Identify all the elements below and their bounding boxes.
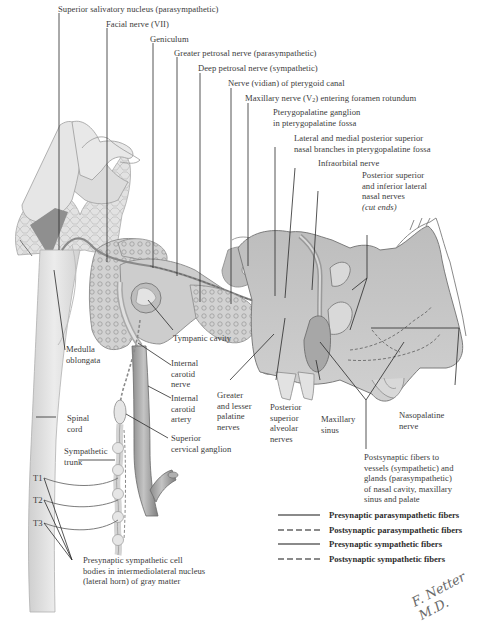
legend-item-postsynaptic-parasympathetic: Postsynaptic parasympathetic fibers [278, 523, 462, 538]
label-superior-salivatory-nucleus: Superior salivatory nucleus (parasympath… [58, 4, 218, 15]
label-deep-petrosal-nerve: Deep petrosal nerve (sympathetic) [198, 63, 318, 74]
fiber-legend: Presynaptic parasympathetic fibers Posts… [278, 508, 462, 566]
label-maxillary-sinus: Maxillary sinus [321, 414, 355, 435]
label-internal-carotid-artery: Internal carotid artery [171, 393, 198, 425]
solid-line-swatch [278, 514, 320, 516]
label-spinal-cord: Spinal cord [67, 413, 89, 434]
label-medulla-oblongata: Medulla oblongata [66, 344, 100, 365]
label-pterygopalatine-ganglion: Pterygopalatine ganglion in pterygopalat… [273, 107, 360, 128]
label-tympanic-cavity: Tympanic cavity [173, 333, 231, 344]
label-nasopalatine-nerve: Nasopalatine nerve [399, 410, 444, 431]
label-presynaptic-cell-bodies: Presynaptic sympathetic cell bodies in i… [83, 555, 205, 587]
label-posterior-superior-inferior-lateral-nasal-nerves: Posterior superior and inferior lateral … [362, 170, 427, 212]
legend-item-presynaptic-sympathetic: Presynaptic sympathetic fibers [278, 537, 462, 552]
label-posterior-superior-alveolar-nerves: Posterior superior alveolar nerves [270, 402, 301, 444]
label-greater-petrosal-nerve: Greater petrosal nerve (parasympathetic) [174, 48, 317, 59]
label-postsynaptic-fibers: Postsynaptic fibers to vessels (sympathe… [364, 452, 454, 505]
label-geniculum: Geniculum [150, 34, 189, 45]
legend-item-presynaptic-parasympathetic: Presynaptic parasympathetic fibers [278, 508, 462, 523]
solid-line-swatch [278, 543, 320, 545]
label-infraorbital-nerve: Infraorbital nerve [318, 158, 379, 169]
label-greater-lesser-palatine-nerves: Greater and lesser palatine nerves [217, 390, 252, 432]
label-superior-cervical-ganglion: Superior cervical ganglion [171, 433, 231, 454]
leader-internal-carotid-artery [148, 386, 171, 398]
label-maxillary-nerve: Maxillary nerve (V2) entering foramen ro… [245, 93, 416, 106]
legend-item-postsynaptic-sympathetic: Postsynaptic sympathetic fibers [278, 552, 462, 567]
dashed-line-swatch [278, 558, 320, 560]
label-t1: T1 [33, 473, 43, 484]
label-nerve-pterygoid-canal: Nerve (vidian) of pterygoid canal [228, 78, 345, 89]
label-t2: T2 [33, 495, 43, 506]
label-sympathetic-trunk: Sympathetic trunk [64, 446, 108, 467]
label-facial-nerve: Facial nerve (VII) [106, 19, 169, 30]
label-t3: T3 [33, 518, 43, 529]
superior-cervical-ganglion-shape [114, 400, 126, 424]
dashed-line-swatch [278, 529, 320, 531]
label-lateral-medial-branches: Lateral and medial posterior superior na… [294, 133, 431, 154]
label-internal-carotid-nerve: Internal carotid nerve [171, 358, 198, 390]
